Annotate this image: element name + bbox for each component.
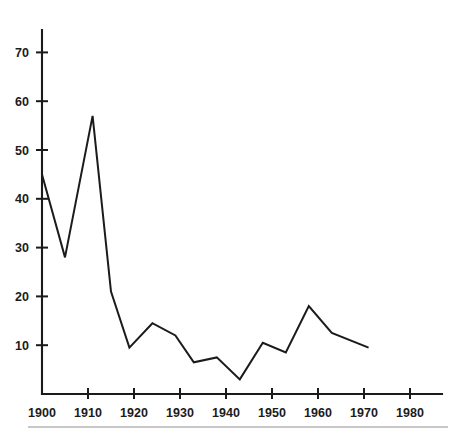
x-tick-label: 1960	[304, 406, 332, 420]
x-tick-label: 1950	[258, 406, 286, 420]
y-tick-label: 70	[15, 46, 29, 60]
chart-figure: 10203040506070 1900191019201930194019501…	[0, 0, 455, 441]
y-tick-label: 20	[15, 290, 29, 304]
x-tick-label: 1920	[120, 406, 148, 420]
y-tick-label: 40	[15, 192, 29, 206]
y-tick-label: 30	[15, 241, 29, 255]
x-tick-label: 1910	[74, 406, 102, 420]
x-tick-label: 1970	[350, 406, 378, 420]
data-series-line	[42, 116, 369, 380]
x-tick-label: 1980	[396, 406, 424, 420]
y-tick-label: 60	[15, 95, 29, 109]
y-tick-label: 10	[15, 339, 29, 353]
line-chart-canvas: 10203040506070 1900191019201930194019501…	[0, 0, 455, 441]
y-tick-label: 50	[15, 144, 29, 158]
x-axis-ticks: 190019101920193019401950196019701980	[28, 388, 424, 420]
x-tick-label: 1940	[212, 406, 240, 420]
y-axis-ticks: 10203040506070	[15, 46, 48, 353]
x-tick-label: 1900	[28, 406, 56, 420]
x-tick-label: 1930	[166, 406, 194, 420]
